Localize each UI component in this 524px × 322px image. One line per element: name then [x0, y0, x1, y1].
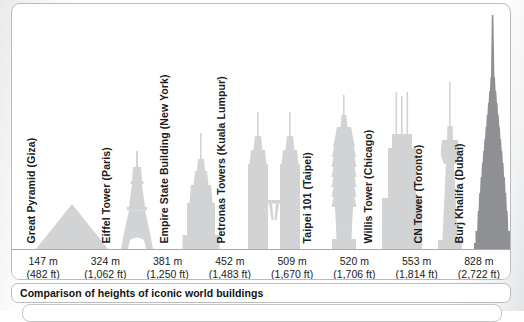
height-metric: 452 m: [215, 255, 244, 268]
height-imperial: (482 ft): [26, 268, 59, 280]
height-metric: 520 m: [340, 255, 369, 268]
next-content-box: [22, 304, 502, 322]
building-eiffel-tower: [116, 151, 158, 249]
building-label-empire-state: Empire State Building (New York): [159, 74, 170, 243]
building-label-taipei-101: Taipei 101 (Taipei): [302, 152, 313, 243]
building-burj-khalifa: [474, 15, 511, 249]
caption-box: Comparison of heights of iconic world bu…: [11, 283, 511, 303]
building-label-petronas-towers: Petronas Towers (Kuala Lumpur): [216, 76, 227, 243]
height-imperial: (1,706 ft): [333, 268, 375, 280]
height-metric: 828 m: [464, 255, 493, 268]
figure-card: Great Pyramid (Giza) Eiffel Tower (Paris…: [11, 3, 511, 280]
height-imperial: (2,722 ft): [458, 268, 500, 280]
height-metric: 381 m: [153, 255, 182, 268]
measurements-row: 147 m (482 ft) 324 m (1,062 ft) 381 m (1…: [12, 249, 510, 280]
measure-cell: 147 m (482 ft): [12, 250, 74, 280]
measure-cell: 520 m (1,706 ft): [323, 250, 385, 280]
height-metric: 509 m: [278, 255, 307, 268]
building-petronas-towers: [240, 112, 308, 249]
building-label-great-pyramid: Great Pyramid (Giza): [26, 137, 37, 243]
height-imperial: (1,250 ft): [147, 268, 189, 280]
measure-cell: 553 m (1,814 ft): [386, 250, 448, 280]
height-imperial: (1,814 ft): [396, 268, 438, 280]
measure-cell: 324 m (1,062 ft): [74, 250, 136, 280]
measure-cell: 828 m (2,722 ft): [448, 250, 510, 280]
building-great-pyramid: [36, 204, 108, 249]
measure-cell: 509 m (1,670 ft): [261, 250, 323, 280]
skyline-chart-area: Great Pyramid (Giza) Eiffel Tower (Paris…: [12, 4, 510, 249]
figure-caption: Comparison of heights of iconic world bu…: [20, 287, 263, 299]
height-metric: 324 m: [91, 255, 120, 268]
measure-cell: 452 m (1,483 ft): [199, 250, 261, 280]
building-label-burj-khalifa: Burj Khalifa (Dubai): [454, 143, 465, 243]
building-label-cn-tower: CN Tower (Toronto): [413, 144, 424, 243]
height-metric: 553 m: [402, 255, 431, 268]
height-imperial: (1,062 ft): [84, 268, 126, 280]
building-label-willis-tower: Willis Tower (Chicago): [363, 129, 374, 243]
height-imperial: (1,670 ft): [271, 268, 313, 280]
height-metric: 147 m: [29, 255, 58, 268]
height-imperial: (1,483 ft): [209, 268, 251, 280]
building-label-eiffel-tower: Eiffel Tower (Paris): [101, 147, 112, 243]
measure-cell: 381 m (1,250 ft): [137, 250, 199, 280]
